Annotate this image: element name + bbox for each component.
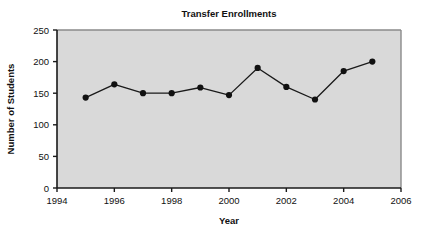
x-tick-label: 1994 <box>46 195 67 206</box>
y-tick-label: 250 <box>33 25 49 36</box>
data-point-marker <box>140 90 146 96</box>
data-point-marker <box>111 81 117 87</box>
x-tick-label: 2004 <box>333 195 354 206</box>
y-tick-label: 50 <box>38 151 49 162</box>
y-tick-label: 100 <box>33 119 49 130</box>
data-point-marker <box>255 65 261 71</box>
data-point-marker <box>83 95 89 101</box>
data-point-marker <box>341 68 347 74</box>
y-tick-label: 150 <box>33 88 49 99</box>
chart-container: Transfer Enrollments 050100150200250 199… <box>0 0 427 235</box>
data-point-marker <box>369 59 375 65</box>
x-tick-label: 2000 <box>218 195 239 206</box>
x-tick-label: 1996 <box>104 195 125 206</box>
x-tick-label: 1998 <box>161 195 182 206</box>
data-point-marker <box>226 92 232 98</box>
x-tick-label: 2006 <box>390 195 411 206</box>
chart-title: Transfer Enrollments <box>181 8 276 19</box>
x-axis-title: Year <box>219 215 239 226</box>
plot-area <box>57 30 401 188</box>
x-tick-label: 2002 <box>276 195 297 206</box>
data-point-marker <box>312 96 318 102</box>
y-axis-title: Number of Students <box>5 64 16 155</box>
data-point-marker <box>169 90 175 96</box>
data-point-marker <box>283 84 289 90</box>
y-tick-label: 200 <box>33 56 49 67</box>
line-chart: Transfer Enrollments 050100150200250 199… <box>0 0 427 235</box>
data-point-marker <box>197 84 203 90</box>
y-tick-label: 0 <box>44 183 49 194</box>
